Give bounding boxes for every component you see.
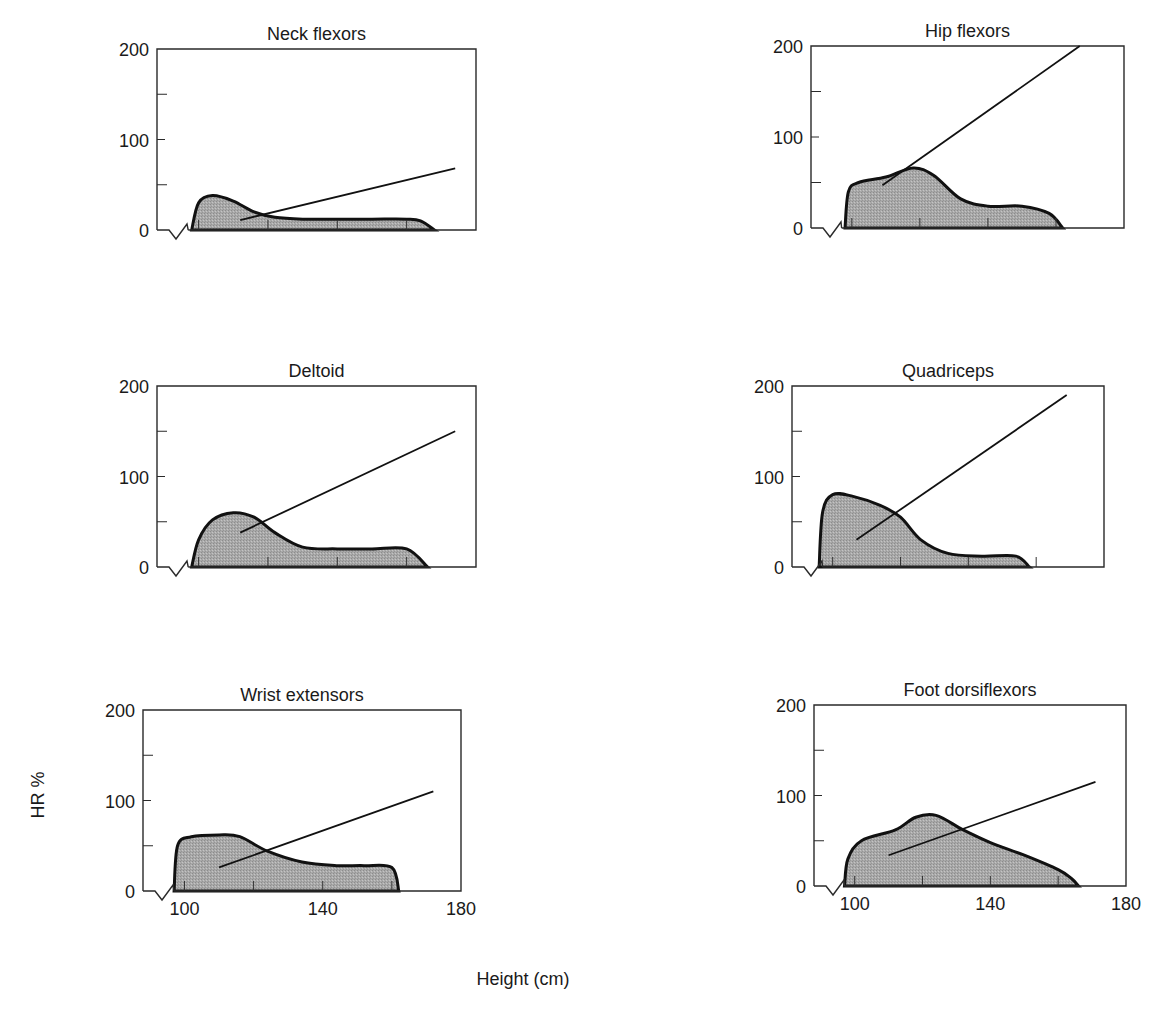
distribution-area xyxy=(845,814,1079,886)
y-tick-label: 200 xyxy=(119,40,149,60)
y-tick-label: 200 xyxy=(119,377,149,397)
y-tick-label: 0 xyxy=(796,877,806,897)
panel-foot-dorsiflexors: Foot dorsiflexors0100200100140180 xyxy=(776,680,1141,914)
axis-break-icon xyxy=(157,561,188,576)
panel-title: Wrist extensors xyxy=(240,685,364,705)
trend-line xyxy=(240,168,455,220)
y-tick-label: 200 xyxy=(754,377,784,397)
distribution-area xyxy=(845,168,1063,228)
distribution-area xyxy=(192,513,428,567)
y-tick-label: 100 xyxy=(773,128,803,148)
x-tick-label: 180 xyxy=(446,899,476,919)
panel-wrist-extensors: Wrist extensors0100200100140180 xyxy=(105,685,476,919)
x-tick-label: 100 xyxy=(169,899,199,919)
panel-title: Foot dorsiflexors xyxy=(903,680,1036,700)
panel-title: Hip flexors xyxy=(925,21,1010,41)
axis-break-icon xyxy=(157,224,188,239)
panel-title: Quadriceps xyxy=(902,361,994,381)
y-tick-label: 0 xyxy=(139,221,149,241)
x-tick-label: 140 xyxy=(975,894,1005,914)
distribution-area xyxy=(192,196,435,230)
axis-break-icon xyxy=(143,885,174,900)
panel-quadriceps: Quadriceps0100200 xyxy=(754,361,1104,578)
x-tick-label: 180 xyxy=(1111,894,1141,914)
y-tick-label: 200 xyxy=(776,696,806,716)
axis-break-icon xyxy=(811,222,842,237)
y-tick-label: 100 xyxy=(776,787,806,807)
trend-line xyxy=(219,791,433,867)
y-tick-label: 0 xyxy=(793,219,803,239)
distribution-area xyxy=(819,493,1029,567)
y-tick-label: 100 xyxy=(119,131,149,151)
x-axis-label: Height (cm) xyxy=(476,969,569,989)
panel-neck-flexors: Neck flexors0100200 xyxy=(119,24,476,241)
y-tick-label: 100 xyxy=(754,468,784,488)
y-tick-label: 200 xyxy=(773,37,803,57)
panel-title: Neck flexors xyxy=(267,24,366,44)
y-tick-label: 200 xyxy=(105,701,135,721)
panel-title: Deltoid xyxy=(288,361,344,381)
y-tick-label: 100 xyxy=(105,792,135,812)
trend-line xyxy=(882,46,1079,185)
panel-deltoid: Deltoid0100200 xyxy=(119,361,476,578)
y-tick-label: 100 xyxy=(119,468,149,488)
x-tick-label: 140 xyxy=(308,899,338,919)
y-tick-label: 0 xyxy=(139,558,149,578)
trend-line xyxy=(856,395,1066,540)
y-tick-label: 0 xyxy=(774,558,784,578)
axis-break-icon xyxy=(814,880,845,895)
y-axis-label: HR % xyxy=(28,771,48,818)
panel-hip-flexors: Hip flexors0100200 xyxy=(773,21,1124,239)
figure: Neck flexors0100200Hip flexors0100200Del… xyxy=(0,0,1171,1032)
x-tick-label: 100 xyxy=(840,894,870,914)
trend-line xyxy=(240,431,455,532)
y-tick-label: 0 xyxy=(125,882,135,902)
